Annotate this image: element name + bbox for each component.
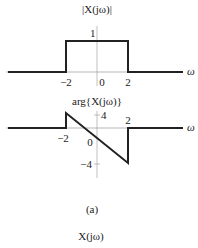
magnitude-title: |X(jω)| [82,3,112,16]
next-plot-title: X(jω) [78,230,104,243]
figure-canvas: |X(jω)| 1 −2 0 2 ω arg{X(jω)} 4 −4 −2 0 … [0,0,198,248]
tick-x-neg2: −2 [60,76,72,88]
tick-x-2: 2 [125,114,131,126]
phase-plot: arg{X(jω)} 4 −4 −2 0 2 ω [6,95,195,178]
tick-x-0: 0 [87,136,93,148]
phase-title: arg{X(jω)} [72,95,122,108]
tick-x-2: 2 [125,76,131,88]
omega-label: ω [187,65,195,77]
tick-y-neg4: −4 [80,158,92,170]
magnitude-plot: |X(jω)| 1 −2 0 2 ω [6,3,195,88]
caption: (a) [86,203,99,216]
tick-x-neg2: −2 [57,132,69,144]
magnitude-curve [8,41,183,72]
tick-x-0: 0 [99,76,105,88]
phase-curve [8,113,183,163]
tick-y-1: 1 [90,27,96,39]
omega-label: ω [187,121,195,133]
tick-y-4: 4 [101,109,107,121]
